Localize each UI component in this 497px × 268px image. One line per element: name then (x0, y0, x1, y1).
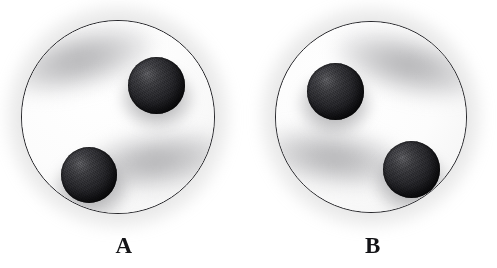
panel-b-label: B (249, 233, 497, 259)
sphere-a-upper (128, 57, 185, 114)
sphere-a-lower-rim (61, 147, 117, 203)
sphere-b-lower (383, 141, 440, 198)
dish-a-plate (21, 20, 215, 214)
dish-b-plate (275, 21, 467, 213)
sphere-a-lower (61, 147, 117, 203)
dish-b (249, 0, 497, 232)
panel-a-label: A (0, 233, 248, 259)
panel-a: A (0, 0, 248, 268)
sphere-b-lower-rim (383, 141, 440, 198)
sphere-a-upper-rim (128, 57, 185, 114)
panel-b: B (249, 0, 497, 268)
dish-a (0, 0, 248, 232)
sphere-b-upper (307, 63, 364, 120)
sphere-b-upper-rim (307, 63, 364, 120)
figure-root: A (0, 0, 497, 268)
